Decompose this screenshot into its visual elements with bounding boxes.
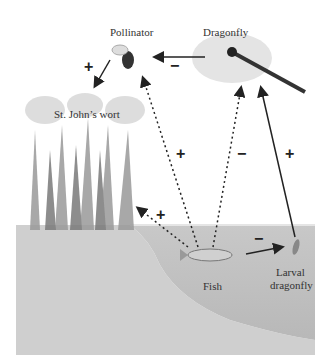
arrow-pollinator-wort — [95, 60, 110, 86]
trophic-cascade-diagram: Pollinator Dragonfly St. John’s wort Fis… — [0, 0, 329, 360]
label-fish: Fish — [203, 280, 222, 292]
pollinator-insect — [112, 45, 134, 69]
sign-fish-pollinator: + — [176, 145, 185, 163]
label-dragonfly: Dragonfly — [203, 26, 248, 38]
label-pollinator: Pollinator — [110, 26, 153, 38]
dragonfly-insect — [192, 33, 305, 92]
arrow-fish-pollinator — [143, 78, 198, 247]
sign-dragonfly-pollinator: − — [170, 57, 179, 75]
label-larval-dragonfly: dragonfly — [270, 279, 313, 291]
sign-fish-wort: + — [156, 206, 165, 224]
diagram-graphics — [0, 0, 329, 360]
sign-fish-dragonfly: − — [237, 145, 246, 163]
arrow-fish-dragonfly — [213, 88, 241, 247]
label-st-johns-wort: St. John’s wort — [54, 108, 120, 120]
label-larval: Larval — [276, 266, 305, 278]
sign-fish-larval: − — [254, 230, 263, 248]
sign-larval-dragonfly: + — [285, 145, 294, 163]
sign-pollinator-wort: + — [84, 58, 93, 76]
